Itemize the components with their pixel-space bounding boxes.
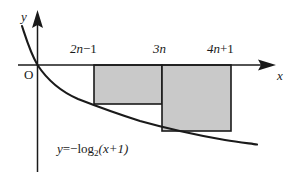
x-tick-label-4n-plus-1: 4n+1 — [207, 42, 234, 55]
curve-equation-label: y=−log2(x+1) — [57, 142, 128, 158]
origin-label: O — [24, 68, 33, 81]
y-axis-label: y — [21, 10, 27, 23]
figure-canvas — [0, 0, 299, 179]
tick-coefficient: 4n — [207, 41, 220, 56]
equation-argument: (x+1) — [99, 141, 129, 156]
tick-coefficient: 2n — [70, 41, 83, 56]
tick-constant: 1 — [227, 41, 234, 56]
x-axis-label: x — [277, 69, 283, 82]
shaded-rectangle-right — [162, 65, 231, 131]
shaded-rectangle-left — [94, 65, 162, 104]
tick-coefficient: 3n — [153, 41, 166, 56]
x-tick-label-2n-minus-1: 2n−1 — [70, 42, 97, 55]
equation-function: log — [77, 141, 94, 156]
math-figure: y x O 2n−1 3n 4n+1 y=−log2(x+1) — [0, 0, 299, 179]
tick-constant: 1 — [90, 41, 97, 56]
equation-operator: =− — [63, 141, 78, 156]
x-tick-label-3n: 3n — [153, 42, 166, 55]
